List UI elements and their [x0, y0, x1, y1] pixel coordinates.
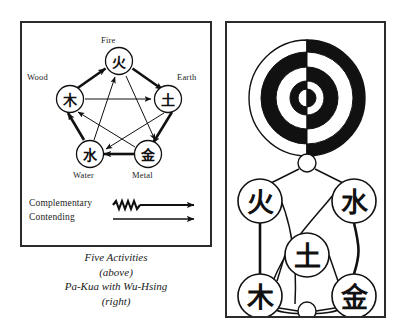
figure-root: 火 木 土 水 金: [0, 0, 404, 333]
edge-fire-to-earth: [133, 69, 163, 90]
node-metal: 金: [135, 141, 162, 168]
edge-earth-to-metal: [153, 112, 172, 143]
node-water: 水: [77, 141, 104, 168]
node-earth: 土: [155, 86, 182, 113]
edge-water-to-wood: [68, 113, 84, 140]
caption-line-4: (right): [20, 294, 212, 309]
complementary-arrow-icon: [113, 201, 194, 209]
node-fire: 火: [106, 48, 133, 75]
edge-wood-to-fire: [76, 69, 106, 90]
svg-text:土: 土: [161, 92, 175, 108]
edge-water-to-fire: [94, 77, 115, 140]
edge-earth-to-metal: [329, 255, 338, 281]
node-water: 水: [332, 179, 376, 223]
pa-kua-diagram: 火 水 土 木 金: [227, 23, 384, 316]
caption-line-3: Pa-Kua with Wu-Hsing: [20, 279, 212, 294]
svg-text:土: 土: [294, 241, 321, 272]
svg-text:水: 水: [341, 187, 369, 218]
legend-arrows: [113, 201, 194, 219]
wuxing-nodes: 火 木 土 水 金: [57, 48, 182, 168]
label-earth: Earth: [177, 72, 196, 82]
legend-label-contending: Contending: [29, 212, 75, 222]
node-earth: 土: [285, 233, 329, 277]
svg-text:金: 金: [140, 147, 156, 163]
svg-text:水: 水: [83, 147, 98, 163]
node-wood: 木: [57, 86, 84, 113]
edge-metal-to-bottomhub: [316, 308, 335, 311]
node-bottom-hub: [298, 302, 316, 316]
label-water: Water: [73, 170, 94, 180]
legend-label-complementary: Complementary: [29, 198, 92, 208]
caption-line-1: Five Activities: [20, 250, 212, 265]
contending-edges: [78, 76, 164, 149]
label-wood: Wood: [27, 72, 48, 82]
node-top-hub: [298, 154, 316, 172]
node-fire: 火: [238, 179, 282, 223]
edge-water-to-metal: [354, 223, 359, 274]
five-activities-panel: 火 木 土 水 金: [20, 21, 212, 247]
label-metal: Metal: [132, 170, 153, 180]
caption-line-2: (above): [20, 265, 212, 280]
svg-text:火: 火: [247, 187, 274, 218]
svg-text:木: 木: [246, 282, 274, 313]
pa-kua-panel: 火 水 土 木 金: [225, 21, 386, 318]
complementary-edges: [68, 69, 172, 155]
svg-text:金: 金: [340, 282, 369, 313]
node-wood: 木: [238, 274, 282, 316]
svg-text:木: 木: [62, 92, 78, 108]
label-fire: Fire: [101, 35, 116, 45]
edge-wood-to-bottomhub: [279, 308, 298, 311]
edge-fire-to-metal: [126, 76, 155, 140]
node-metal: 金: [332, 274, 376, 316]
taiji-rings: [249, 40, 365, 156]
figure-caption: Five Activities (above) Pa-Kua with Wu-H…: [20, 250, 212, 308]
svg-text:火: 火: [112, 54, 127, 70]
